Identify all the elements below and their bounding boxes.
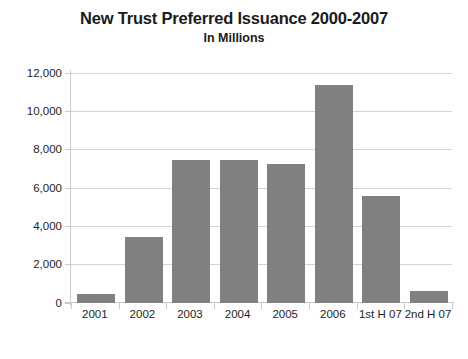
- x-tick-8: [452, 303, 453, 309]
- y-axis-label-8000: 8,000: [2, 143, 62, 155]
- y-axis-label-6000: 6,000: [2, 182, 62, 194]
- bar-1st-h-07: [362, 196, 400, 303]
- page-title: New Trust Preferred Issuance 2000-2007: [0, 8, 468, 28]
- plot-area: [71, 72, 452, 303]
- y-tick-6000: [65, 188, 71, 189]
- bar-2nd-h-07: [410, 291, 448, 304]
- bar-2005: [267, 164, 305, 303]
- y-tick-8000: [65, 149, 71, 150]
- gridline-8000: [71, 149, 452, 150]
- x-axis-label-2006: 2006: [309, 307, 357, 321]
- y-axis-label-10000: 10,000: [2, 105, 62, 117]
- x-axis-label-2002: 2002: [119, 307, 167, 321]
- x-axis-label-2003: 2003: [166, 307, 214, 321]
- bar-chart: New Trust Preferred Issuance 2000-2007 I…: [0, 0, 468, 359]
- y-axis-label-4000: 4,000: [2, 220, 62, 232]
- y-tick-12000: [65, 73, 71, 74]
- y-axis-labels: 12,000 10,000 8,000 6,000 4,000 2,000 0: [0, 0, 62, 359]
- bar-2002: [125, 237, 163, 303]
- y-tick-2000: [65, 264, 71, 265]
- x-axis-label-1st-h-07: 1st H 07: [357, 307, 405, 321]
- x-axis-label-2005: 2005: [261, 307, 309, 321]
- gridline-10000: [71, 111, 452, 112]
- bar-2003: [172, 160, 210, 303]
- chart-subtitle: In Millions: [0, 30, 468, 47]
- x-axis-label-2001: 2001: [71, 307, 119, 321]
- x-axis-label-2004: 2004: [214, 307, 262, 321]
- chart-title-block: New Trust Preferred Issuance 2000-2007 I…: [0, 8, 468, 47]
- bar-2006: [315, 85, 353, 304]
- y-axis-label-12000: 12,000: [2, 67, 62, 79]
- y-axis-label-0: 0: [2, 297, 62, 309]
- bar-2001: [77, 294, 115, 303]
- y-tick-4000: [65, 226, 71, 227]
- y-tick-10000: [65, 111, 71, 112]
- x-axis-label-2nd-h-07: 2nd H 07: [404, 307, 452, 321]
- gridline-12000: [71, 73, 452, 74]
- y-axis-label-2000: 2,000: [2, 258, 62, 270]
- gridline-6000: [71, 188, 452, 189]
- bar-2004: [220, 160, 258, 303]
